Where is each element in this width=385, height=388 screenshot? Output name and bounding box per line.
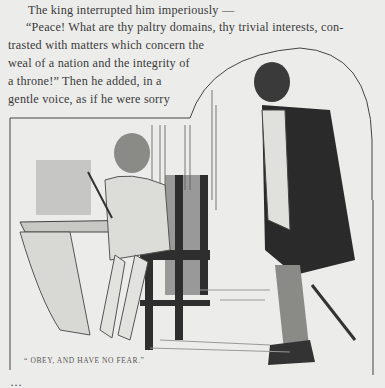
illustration-caption: “ OBEY, AND HAVE NO FEAR.” bbox=[24, 356, 145, 365]
engraving-illustration bbox=[0, 0, 385, 388]
cut-off-text-line: … bbox=[10, 381, 380, 388]
